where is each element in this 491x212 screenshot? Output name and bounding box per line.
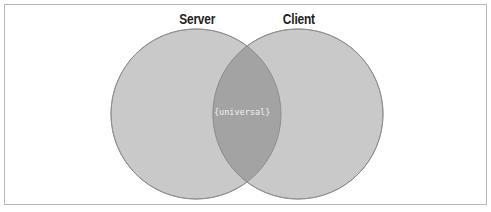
server-label: Server: [179, 11, 215, 27]
venn-diagram: [0, 0, 491, 212]
intersection-label: {universal}: [214, 107, 270, 117]
client-label: Client: [283, 11, 315, 27]
